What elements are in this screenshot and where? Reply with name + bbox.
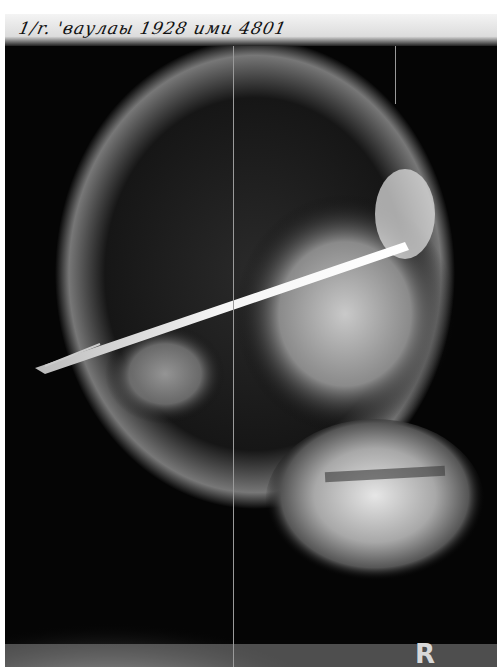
skull-radiograph: [5, 14, 497, 667]
handwritten-annotation: 1/r. 'ваулаы 1928 ими 4801: [17, 18, 289, 38]
xray-film: 1/r. 'ваулаы 1928 ими 4801 R: [5, 14, 497, 667]
scratch-line: [233, 14, 234, 667]
side-marker: R: [415, 639, 435, 667]
film-label-strip: 1/r. 'ваулаы 1928 ими 4801: [5, 14, 497, 46]
